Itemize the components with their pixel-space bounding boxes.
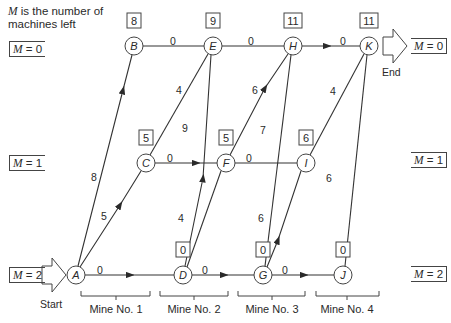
- node-value: 0: [340, 244, 346, 256]
- node-label: I: [304, 157, 307, 169]
- node-value: 11: [287, 15, 298, 27]
- weight-A-D: 0: [97, 264, 103, 276]
- start-label: Start: [40, 298, 62, 310]
- var: M: [414, 268, 424, 280]
- edge-G-I: [267, 171, 301, 267]
- edge-J-K: [345, 55, 367, 266]
- node-value: 9: [210, 15, 216, 27]
- value: = 1: [26, 157, 42, 169]
- weight-G-J: 0: [282, 264, 288, 276]
- end-label: End: [382, 66, 401, 78]
- var: M: [13, 269, 23, 281]
- node-value: 0: [180, 244, 186, 256]
- note-text: is the number of machines left: [8, 5, 103, 30]
- node-label: D: [179, 269, 187, 281]
- var: M: [13, 157, 23, 169]
- weight-I-K: 4: [330, 85, 336, 97]
- legend-note: M is the number of machines left: [8, 5, 128, 31]
- mine-bracket-3: [238, 291, 305, 300]
- mine-bracket-1: [81, 291, 150, 300]
- weight-F-H: 6: [252, 84, 258, 96]
- value: = 0: [26, 43, 42, 55]
- edge-A-C: [80, 171, 141, 267]
- node-value: 8: [131, 15, 137, 27]
- weight-G-H: 7: [260, 124, 266, 136]
- start-arrow: [42, 258, 66, 292]
- weight-H-K: 0: [340, 35, 346, 47]
- node-label: J: [339, 269, 346, 281]
- edge-I-K: [310, 54, 364, 155]
- node-value: 5: [223, 132, 229, 144]
- var: M: [414, 154, 424, 166]
- value: = 0: [427, 40, 443, 52]
- value: = 2: [427, 268, 443, 280]
- network-diagram: AB8C5D0E9F5G0H11I6J0K11: [0, 0, 451, 323]
- edge-G-H: [265, 55, 291, 266]
- state-label-right-m1: M = 1: [411, 152, 447, 168]
- var: M: [13, 43, 23, 55]
- mine-label-4: Mine No. 4: [307, 303, 387, 315]
- value: = 1: [427, 154, 443, 166]
- node-value: 11: [363, 15, 374, 27]
- node-label: A: [71, 269, 79, 281]
- state-label-right-m0: M = 0: [411, 38, 447, 54]
- node-label: G: [259, 269, 268, 281]
- weight-A-C: 5: [101, 210, 107, 222]
- state-label-left-m1: M = 1: [9, 155, 45, 171]
- state-label-left-m2: M = 2: [9, 267, 45, 283]
- edge-F-H: [230, 54, 288, 155]
- weight-F-I: 0: [246, 152, 252, 164]
- weight-G-I: 6: [258, 212, 264, 224]
- weight-D-G: 0: [202, 264, 208, 276]
- node-label: H: [289, 40, 297, 52]
- node-label: C: [142, 157, 150, 169]
- weight-D-E: 9: [182, 122, 188, 134]
- mine-label-1: Mine No. 1: [76, 303, 156, 315]
- node-label: K: [365, 40, 373, 52]
- note-var: M: [8, 5, 18, 17]
- node-value: 6: [303, 132, 309, 144]
- state-label-left-m0: M = 0: [9, 41, 45, 57]
- weight-J-K: 6: [326, 172, 332, 184]
- mine-label-2: Mine No. 2: [154, 303, 234, 315]
- mine-bracket-2: [160, 291, 228, 300]
- weight-A-B: 8: [91, 171, 97, 183]
- node-value: 0: [260, 244, 266, 256]
- state-label-right-m2: M = 2: [411, 266, 447, 282]
- node-label: B: [130, 40, 137, 52]
- node-label: E: [209, 40, 217, 52]
- weight-C-F: 0: [167, 152, 173, 164]
- mine-label-3: Mine No. 3: [232, 303, 312, 315]
- value: = 2: [26, 269, 42, 281]
- weight-E-H: 0: [248, 35, 254, 47]
- weight-C-E: 4: [176, 84, 182, 96]
- end-arrow: [383, 29, 407, 63]
- weight-D-F: 4: [178, 212, 184, 224]
- node-value: 5: [143, 132, 149, 144]
- edge-A-B: [78, 55, 132, 266]
- edge-D-F: [187, 171, 221, 267]
- weight-B-E: 0: [170, 35, 176, 47]
- mine-bracket-4: [316, 291, 379, 300]
- var: M: [414, 40, 424, 52]
- edge-C-E: [150, 54, 208, 155]
